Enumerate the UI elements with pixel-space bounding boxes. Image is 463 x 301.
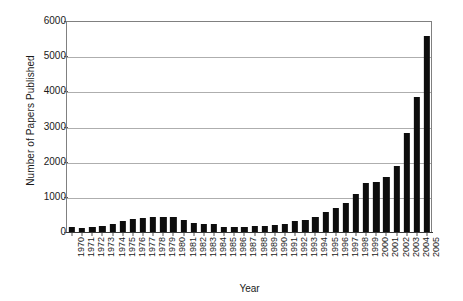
y-tick-label: 0 (32, 227, 66, 237)
bar-slot (229, 21, 239, 232)
x-tick-label: 1991 (289, 237, 298, 257)
bar-slot (77, 21, 87, 232)
bar (343, 203, 349, 232)
bar (251, 226, 257, 232)
x-tick-mark (244, 233, 245, 236)
bar-slot (290, 21, 300, 232)
x-tick-label: 2003 (411, 237, 420, 257)
bar (333, 208, 339, 232)
chart-page: Number of Papers Published 0100020003000… (0, 0, 463, 301)
bar-slot (412, 21, 422, 232)
bar (69, 227, 75, 232)
x-tick-label: 1976 (137, 237, 146, 257)
x-tick-mark (183, 233, 184, 236)
x-tick-label: 1987 (249, 237, 258, 257)
bar (424, 36, 430, 232)
bar-slot (250, 21, 260, 232)
x-tick-mark (82, 233, 83, 236)
bar-slot (138, 21, 148, 232)
bar (221, 227, 227, 232)
x-tick-label: 1986 (239, 237, 248, 257)
x-tick-label: 1979 (168, 237, 177, 257)
bar (130, 219, 136, 232)
x-tick-label: 1977 (148, 237, 157, 257)
bar-slot (87, 21, 97, 232)
x-tick-label: 2002 (401, 237, 410, 257)
bar (404, 133, 410, 232)
bar (383, 177, 389, 232)
x-tick-mark (305, 233, 306, 236)
bar (292, 221, 298, 232)
x-tick-mark (406, 233, 407, 236)
y-tick-label: 5000 (32, 51, 66, 61)
bar (211, 224, 217, 232)
x-tick-mark (426, 233, 427, 236)
x-tick-label: 1972 (97, 237, 106, 257)
x-tick-label: 1995 (330, 237, 339, 257)
x-tick-mark (122, 233, 123, 236)
x-tick-label: 1999 (371, 237, 380, 257)
bar-slot (239, 21, 249, 232)
bar (353, 194, 359, 232)
bar (272, 225, 278, 232)
x-tick-label: 1973 (107, 237, 116, 257)
x-tick-mark (132, 233, 133, 236)
x-tick-mark (102, 233, 103, 236)
y-tick-label: 2000 (32, 157, 66, 167)
bar (150, 217, 156, 232)
x-tick-label: 1985 (229, 237, 238, 257)
bar (302, 220, 308, 232)
x-tick-label: 1992 (300, 237, 309, 257)
bar-slot (371, 21, 381, 232)
x-tick-label: 1996 (340, 237, 349, 257)
x-tick-mark (325, 233, 326, 236)
bar-slot (402, 21, 412, 232)
y-tick-label: 4000 (32, 86, 66, 96)
bar (180, 220, 186, 232)
bar-slot (320, 21, 330, 232)
bar-slot (179, 21, 189, 232)
x-tick-mark (274, 233, 275, 236)
bar (241, 227, 247, 232)
bar-slot (199, 21, 209, 232)
bar (262, 226, 268, 232)
bar (109, 224, 115, 232)
bar-slot (422, 21, 432, 232)
bar (322, 212, 328, 232)
x-tick-label: 2005 (431, 237, 440, 257)
x-tick-mark (366, 233, 367, 236)
x-tick-mark (203, 233, 204, 236)
x-tick-mark (335, 233, 336, 236)
x-tick-mark (264, 233, 265, 236)
bar (282, 224, 288, 232)
x-tick-label: 1994 (320, 237, 329, 257)
x-tick-mark (214, 233, 215, 236)
x-tick-label: 1975 (127, 237, 136, 257)
y-tick-label: 1000 (32, 192, 66, 202)
bar (140, 218, 146, 232)
x-tick-label: 2001 (391, 237, 400, 257)
bar (120, 221, 126, 232)
x-tick-label: 1989 (269, 237, 278, 257)
x-tick-mark (173, 233, 174, 236)
x-tick-mark (224, 233, 225, 236)
bar-slot (118, 21, 128, 232)
x-tick-label: 1982 (198, 237, 207, 257)
x-tick-label: 1974 (117, 237, 126, 257)
x-tick-label: 1978 (158, 237, 167, 257)
x-tick-mark (284, 233, 285, 236)
bar-slot (128, 21, 138, 232)
x-tick-mark (163, 233, 164, 236)
x-tick-mark (386, 233, 387, 236)
x-tick-mark (143, 233, 144, 236)
bar (79, 228, 85, 232)
x-tick-mark (355, 233, 356, 236)
x-tick-mark (254, 233, 255, 236)
bar-slot (391, 21, 401, 232)
x-tick-label: 1997 (350, 237, 359, 257)
bar-slot (148, 21, 158, 232)
x-tick-label: 1981 (188, 237, 197, 257)
x-tick-mark (193, 233, 194, 236)
bar-slot (260, 21, 270, 232)
x-tick-mark (315, 233, 316, 236)
